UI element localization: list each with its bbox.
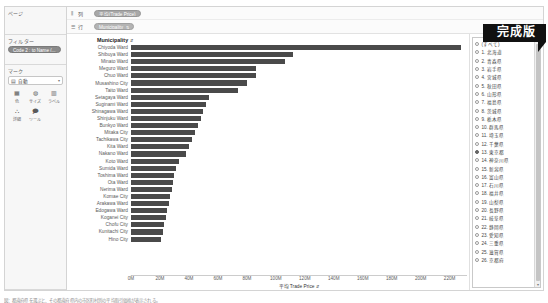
bar[interactable] [131,80,247,85]
radio-icon[interactable] [475,250,479,254]
columns-shelf[interactable]: ⫼ 列 平均(Trade Price) [67,7,543,20]
prefecture-filter-item[interactable]: 11. 埼玉県 [475,131,533,139]
marks-button-detail[interactable]: ⛬ 詳細 [8,106,26,122]
radio-icon[interactable] [475,109,479,113]
bar[interactable] [131,95,209,100]
bar-row[interactable]: Meguro Ward [69,65,467,72]
radio-icon[interactable] [475,233,479,237]
bar[interactable] [131,180,173,185]
prefecture-filter-item[interactable]: 25. 滋賀県 [475,247,533,255]
prefecture-filter-item[interactable]: 19. 山梨県 [475,198,533,206]
prefecture-filter-item[interactable]: 9. 栃木県 [475,115,533,123]
prefecture-filter-item[interactable]: 12. 千葉県 [475,140,533,148]
bar[interactable] [131,194,170,199]
rows-shelf[interactable]: ☰ 行 Municipality⇅ [67,20,543,33]
bar-row[interactable]: Ota Ward [69,179,467,186]
radio-icon[interactable] [475,158,479,162]
bar-row[interactable]: Chuo Ward [69,72,467,79]
bar-row[interactable]: Komae City [69,193,467,200]
bar-row[interactable]: Nerima Ward [69,186,467,193]
bar-row[interactable]: Bunkyo Ward [69,122,467,129]
radio-icon[interactable] [475,183,479,187]
radio-icon[interactable] [475,191,479,195]
chevron-down-icon[interactable]: ▾ [58,78,60,83]
radio-icon[interactable] [475,42,479,46]
bar-row[interactable]: Musashino City [69,79,467,86]
bar[interactable] [131,59,285,64]
bar-row[interactable]: Taito Ward [69,87,467,94]
prefecture-filter-item[interactable]: 24. 三重県 [475,239,533,247]
radio-icon[interactable] [475,241,479,245]
bar-row[interactable]: Setagaya Ward [69,94,467,101]
prefecture-filter-item[interactable]: 7. 福島県 [475,98,533,106]
bar-row[interactable]: Chiyoda Ward [69,44,467,51]
radio-icon[interactable] [475,84,479,88]
bar-row[interactable]: Hino City [69,236,467,243]
prefecture-filter-item[interactable]: 13. 東京都 [475,148,533,156]
radio-icon[interactable] [475,175,479,179]
marks-button-size[interactable]: ◍ サイズ [27,88,45,104]
prefecture-filter-item[interactable]: 16. 富山県 [475,173,533,181]
prefecture-filter-item[interactable]: 10. 群馬県 [475,123,533,131]
radio-icon[interactable] [475,225,479,229]
prefecture-filter-item[interactable]: 15. 新潟県 [475,164,533,172]
prefecture-filter-item[interactable]: 23. 愛知県 [475,231,533,239]
prefecture-filter-item[interactable]: 26. 京都府 [475,256,533,264]
bar[interactable] [131,73,256,78]
prefecture-filter-list[interactable]: (すべて)1. 北海道2. 青森県3. 岩手県4. 宮城県5. 秋田県6. 山形… [473,38,534,287]
bar-row[interactable]: Koto Ward [69,158,467,165]
prefecture-filter-item[interactable]: 2. 青森県 [475,57,533,65]
radio-icon[interactable] [475,50,479,54]
prefecture-filter-item[interactable]: 21. 岐阜県 [475,214,533,222]
bar-row[interactable]: Koganei City [69,214,467,221]
filter-pill-code2-to-name[interactable]: Code 2 : to Name (... [8,46,61,53]
bar-row[interactable]: Minato Ward [69,58,467,65]
radio-icon[interactable] [475,216,479,220]
radio-icon[interactable] [475,67,479,71]
bar-row[interactable]: Nakano Ward [69,150,467,157]
radio-icon[interactable] [475,59,479,63]
columns-pill-avg-trade-price[interactable]: 平均(Trade Price) [94,10,141,17]
radio-icon[interactable] [475,150,479,154]
bar[interactable] [131,144,189,149]
bar-row[interactable]: Kunitachi City [69,228,467,235]
marks-button-color[interactable]: ▦ 色 [8,88,26,104]
bar[interactable] [131,45,461,50]
prefecture-filter-item[interactable]: 22. 静岡県 [475,223,533,231]
scroll-down-icon[interactable]: ▾ [537,282,539,287]
bar-row[interactable]: Arakawa Ward [69,200,467,207]
prefecture-filter-item[interactable]: 4. 宮城県 [475,73,533,81]
bar[interactable] [131,166,176,171]
bar[interactable] [131,159,179,164]
prefecture-filter-item[interactable]: 18. 福井県 [475,189,533,197]
bar-row[interactable]: Edogawa Ward [69,207,467,214]
scrollbar-thumb[interactable] [536,44,540,281]
prefecture-filter-scrollbar[interactable]: ▴ ▾ [534,38,540,287]
bar[interactable] [131,187,172,192]
prefecture-filter-item[interactable]: 20. 長野県 [475,206,533,214]
bar-row[interactable]: Shinagawa Ward [69,108,467,115]
radio-icon[interactable] [475,208,479,212]
prefecture-filter-item[interactable]: 6. 山形県 [475,90,533,98]
radio-icon[interactable] [475,75,479,79]
sort-desc-icon[interactable]: ⇵ [130,38,133,43]
bar[interactable] [131,173,174,178]
bar[interactable] [131,208,167,213]
bar[interactable] [131,137,192,142]
bar[interactable] [131,237,161,242]
bar[interactable] [131,102,206,107]
prefecture-filter-item[interactable]: 17. 石川県 [475,181,533,189]
bar[interactable] [131,116,201,121]
bar[interactable] [131,123,198,128]
bar-row[interactable]: Chofu City [69,221,467,228]
bar-row[interactable]: Tachikawa City [69,136,467,143]
radio-icon[interactable] [475,133,479,137]
marks-button-label[interactable]: ▥ ラベル [45,88,63,104]
bar-row[interactable]: Sumida Ward [69,165,467,172]
bar[interactable] [131,222,164,227]
radio-icon[interactable] [475,92,479,96]
radio-icon[interactable] [475,117,479,121]
bar[interactable] [131,151,186,156]
bar[interactable] [131,215,166,220]
radio-icon[interactable] [475,142,479,146]
